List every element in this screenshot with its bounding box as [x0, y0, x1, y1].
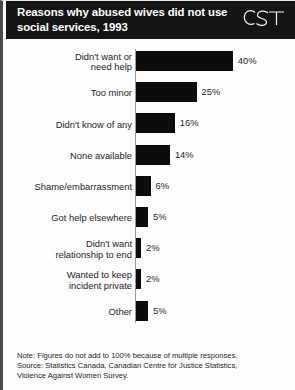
category-label: Shame/embarrassment	[6, 182, 132, 193]
category-label: Got help elsewhere	[6, 213, 132, 224]
chart-title-line-1: Reasons why abused wives did not use	[17, 5, 232, 20]
bar	[136, 145, 170, 165]
category-label-line: relationship to end	[6, 250, 132, 261]
plot-area: Didn't want orneed help40%Too minor25%Di…	[6, 39, 295, 344]
category-label: Didn't wantrelationship to end	[6, 239, 132, 260]
bar-value-label: 5%	[153, 305, 167, 316]
bar-value-label: 16%	[180, 117, 199, 128]
bar-value-label: 6%	[156, 180, 170, 191]
bar	[136, 301, 148, 321]
bar-row: Didn't wantrelationship to end2%	[6, 238, 295, 258]
category-label: None available	[6, 151, 132, 162]
bar-value-label: 5%	[153, 211, 167, 222]
category-label-line: need help	[6, 62, 132, 73]
chart-header-bar: Reasons why abused wives did not use soc…	[6, 1, 295, 39]
bar	[136, 207, 148, 227]
chart-figure: Reasons why abused wives did not use soc…	[0, 0, 295, 390]
bar-row: Got help elsewhere5%	[6, 207, 295, 227]
bar-value-label: 2%	[146, 242, 160, 253]
bar-row: Wanted to keepincident private2%	[6, 269, 295, 289]
cst-logo-icon	[240, 6, 288, 30]
footnote-source-1: Source: Statistics Canada, Canadian Cent…	[17, 361, 279, 371]
bar-value-label: 14%	[175, 149, 194, 160]
category-label-line: None available	[6, 151, 132, 162]
category-label-line: Too minor	[6, 88, 132, 99]
footnote-source-2: Violence Against Women Survey.	[17, 371, 279, 381]
bar-row: Too minor25%	[6, 82, 295, 102]
chart-title: Reasons why abused wives did not use soc…	[17, 5, 232, 34]
bar	[136, 176, 151, 196]
category-label-line: Shame/embarrassment	[6, 182, 132, 193]
category-label: Wanted to keepincident private	[6, 270, 132, 291]
bar	[136, 51, 233, 71]
bar-value-label: 40%	[238, 55, 257, 66]
category-label-line: Didn't know of any	[6, 120, 132, 131]
category-label: Other	[6, 307, 132, 318]
bar-row: Other5%	[6, 301, 295, 321]
chart-title-line-2: social services, 1993	[17, 20, 232, 35]
bar	[136, 238, 141, 258]
bar	[136, 269, 141, 289]
category-label: Too minor	[6, 88, 132, 99]
footnote-note: Note: Figures do not add to 100% because…	[17, 351, 279, 361]
bar-row: Shame/embarrassment6%	[6, 176, 295, 196]
bar-row: Didn't want orneed help40%	[6, 51, 295, 71]
bar	[136, 82, 197, 102]
category-label: Didn't know of any	[6, 120, 132, 131]
category-label-line: Got help elsewhere	[6, 213, 132, 224]
category-label-line: incident private	[6, 281, 132, 292]
bar-row: Didn't know of any16%	[6, 113, 295, 133]
bar-value-label: 2%	[146, 273, 160, 284]
bar-row: None available14%	[6, 145, 295, 165]
bar-value-label: 25%	[202, 86, 221, 97]
category-label: Didn't want orneed help	[6, 52, 132, 73]
bar	[136, 113, 175, 133]
category-label-line: Other	[6, 307, 132, 318]
chart-footnote: Note: Figures do not add to 100% because…	[17, 351, 279, 381]
